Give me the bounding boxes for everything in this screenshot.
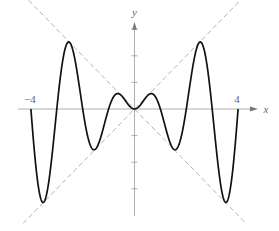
axes xyxy=(18,22,258,216)
x-axis-arrow-icon xyxy=(250,107,258,112)
x-axis-label: x xyxy=(263,103,269,115)
function-plot: −4 4 x y xyxy=(0,0,279,231)
y-axis-label: y xyxy=(131,6,137,18)
x-min-label: −4 xyxy=(24,93,36,105)
x-max-label: 4 xyxy=(234,93,240,105)
y-axis-arrow-icon xyxy=(132,22,137,30)
